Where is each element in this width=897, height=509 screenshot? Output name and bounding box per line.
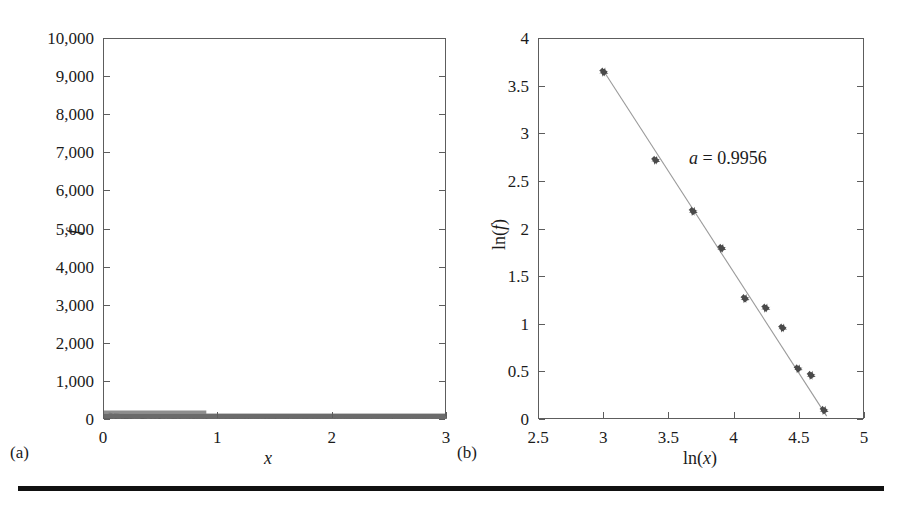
y-tick-label: 0 [521,411,530,428]
y-tick-mark [104,229,110,230]
data-point-marker [778,323,787,332]
y-tick-mark [539,38,545,39]
y-tick-label: 4 [521,30,530,47]
data-point-marker [807,371,816,380]
y-tick-mark-right [439,114,445,115]
y-tick-mark-right [439,267,445,268]
bottom-rule [18,486,884,491]
x-axis-label-b-suffix: ) [711,448,717,468]
panel-a: 01,0002,0003,0004,0005,0006,0007,0008,00… [0,0,450,470]
x-axis-label-b: ln(x) [683,448,717,469]
y-tick-mark [539,181,545,182]
y-tick-mark-right [857,38,863,39]
data-point-marker [761,303,770,312]
y-tick-mark [104,190,110,191]
x-tick-label: 2.5 [527,429,548,446]
y-tick-label: 4,000 [56,258,94,275]
scatter-plot-b [539,39,863,418]
x-axis-label-b-variable: x [703,448,711,468]
y-tick-mark [104,76,110,77]
y-tick-mark [539,276,545,277]
y-tick-mark [104,343,110,344]
x-tick-label: 5 [860,429,869,446]
y-axis-label-a: f [64,229,85,234]
y-tick-mark-right [857,371,863,372]
y-tick-mark [104,305,110,306]
y-tick-label: 6,000 [56,182,94,199]
y-tick-mark [104,419,110,420]
y-tick-label: 1,000 [56,372,94,389]
y-tick-label: 3.5 [508,77,529,94]
x-axis-label-a: x [264,448,272,469]
y-tick-label: 1.5 [508,268,529,285]
y-axis-label-b-variable: f [489,225,509,230]
y-tick-mark [539,324,545,325]
fit-annotation-value: 0.9956 [717,148,767,168]
y-tick-mark-right [857,276,863,277]
y-tick-mark [539,371,545,372]
y-tick-label: 0 [86,411,95,428]
x-tick-label: 3.5 [658,429,679,446]
scatter-plot-a [104,39,445,418]
y-tick-mark-right [857,419,863,420]
y-tick-label: 2 [521,220,530,237]
y-tick-mark-right [439,190,445,191]
x-axis-label-b-prefix: ln( [683,448,703,468]
y-tick-mark [539,229,545,230]
y-tick-label: 2,000 [56,334,94,351]
panel-caption-b: (b) [457,443,477,463]
x-tick-mark [864,412,865,418]
y-tick-mark-right [439,381,445,382]
x-tick-label: 0 [99,429,108,446]
x-tick-label: 4 [729,429,738,446]
y-axis-label-b-prefix: ln( [489,230,509,250]
x-tick-label: 2 [327,429,336,446]
y-tick-mark [104,267,110,268]
y-tick-mark-right [857,229,863,230]
y-tick-label: 9,000 [56,68,94,85]
panel-caption-a: (a) [10,443,29,463]
y-axis-label-b-suffix: ) [489,219,509,225]
x-tick-mark [103,412,104,418]
x-tick-label: 4.5 [788,429,809,446]
y-tick-mark [539,86,545,87]
y-tick-label: 1 [521,315,530,332]
y-tick-mark-right [439,152,445,153]
x-tick-label: 1 [213,429,222,446]
x-tick-mark [668,412,669,418]
y-tick-mark [539,419,545,420]
fit-annotation: a = 0.9956 [689,148,767,169]
y-tick-label: 3,000 [56,296,94,313]
x-tick-mark [217,412,218,418]
y-tick-mark [104,114,110,115]
x-tick-mark [332,412,333,418]
plot-area-a [103,38,446,419]
y-tick-label: 0.5 [508,363,529,380]
plot-area-b [538,38,864,419]
fit-annotation-symbol: a [689,148,698,168]
y-tick-mark-right [439,343,445,344]
fit-line [604,71,827,416]
y-tick-mark [104,381,110,382]
y-tick-mark-right [439,305,445,306]
y-tick-mark-right [857,324,863,325]
y-tick-label: 10,000 [47,30,94,47]
y-tick-mark-right [857,86,863,87]
panel-b: 00.511.522.533.54 2.533.544.55 ln(f) ln(… [447,0,897,470]
y-axis-label-b: ln(f) [489,219,510,250]
y-tick-mark [539,133,545,134]
y-tick-mark [104,152,110,153]
y-tick-mark [104,38,110,39]
band-core [104,414,445,419]
x-tick-mark [734,412,735,418]
y-tick-mark-right [857,181,863,182]
y-tick-label: 7,000 [56,144,94,161]
figure-container: 01,0002,0003,0004,0005,0006,0007,0008,00… [0,0,897,509]
x-tick-mark [603,412,604,418]
fit-annotation-equals: = [698,148,717,168]
y-tick-mark-right [857,133,863,134]
y-tick-label: 8,000 [56,106,94,123]
y-tick-mark-right [439,229,445,230]
x-tick-label: 3 [599,429,608,446]
y-tick-mark-right [439,38,445,39]
